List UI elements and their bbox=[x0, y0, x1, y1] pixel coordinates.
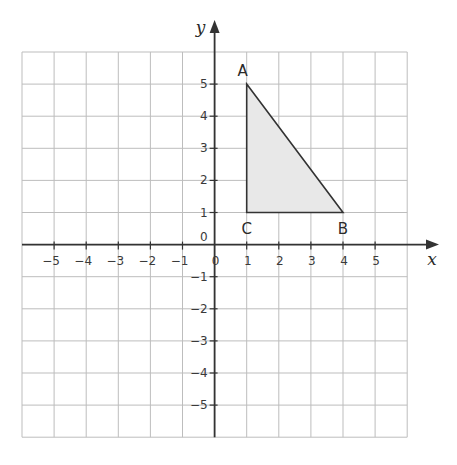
vertex-label-b: B bbox=[338, 220, 348, 238]
x-tick-label: −2 bbox=[139, 254, 157, 268]
y-tick-label: −2 bbox=[190, 302, 208, 316]
x-tick-label: 0 bbox=[212, 254, 220, 268]
x-tick-label: −5 bbox=[42, 254, 60, 268]
y-axis-label: y bbox=[195, 17, 206, 37]
vertex-label-a: A bbox=[238, 62, 249, 80]
y-tick-label: 5 bbox=[200, 77, 208, 91]
axes bbox=[22, 20, 439, 437]
x-axis-label: x bbox=[427, 249, 437, 269]
y-tick-label: −1 bbox=[190, 270, 208, 284]
x-tick-label: 5 bbox=[372, 254, 380, 268]
y-tick-label: 3 bbox=[200, 141, 208, 155]
y-tick-label: −4 bbox=[190, 366, 208, 380]
y-tick-label: −3 bbox=[190, 334, 208, 348]
x-tick-label: 1 bbox=[244, 254, 252, 268]
vertex-label-c: C bbox=[241, 220, 251, 238]
y-tick-label: −5 bbox=[190, 398, 208, 412]
x-tick-label: −3 bbox=[106, 254, 124, 268]
x-tick-label: −4 bbox=[74, 254, 92, 268]
y-tick-label: 4 bbox=[200, 109, 208, 123]
x-tick-label: 3 bbox=[308, 254, 316, 268]
y-tick-label: 1 bbox=[200, 206, 208, 220]
x-tick-label: 2 bbox=[276, 254, 284, 268]
x-tick-label: −1 bbox=[171, 254, 189, 268]
x-tick-label: 4 bbox=[340, 254, 348, 268]
y-axis-arrow-icon bbox=[210, 20, 220, 33]
y-tick-label: 2 bbox=[200, 173, 208, 187]
coordinate-grid-diagram: −5−4−3−2−101234554321−1−2−3−4−50xy ABC bbox=[0, 0, 457, 465]
origin-label: 0 bbox=[200, 230, 208, 244]
